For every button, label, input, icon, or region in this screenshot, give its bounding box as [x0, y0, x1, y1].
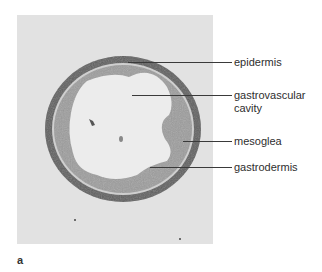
label-mesoglea: mesoglea — [234, 135, 282, 148]
cross-section-illustration — [17, 15, 213, 244]
leader-line-gastrovascular-cavity — [132, 95, 232, 96]
gastrovascular-cavity-region — [69, 73, 171, 179]
leader-line-gastrodermis — [150, 167, 232, 168]
leader-line-mesoglea — [183, 141, 232, 142]
panel-letter: a — [17, 254, 23, 266]
label-gastrodermis: gastrodermis — [234, 161, 298, 174]
micrograph — [17, 15, 213, 244]
leader-line-epidermis — [128, 62, 232, 63]
label-gastrovascular-cavity: gastrovascular cavity — [234, 89, 306, 115]
label-epidermis: epidermis — [234, 56, 282, 69]
